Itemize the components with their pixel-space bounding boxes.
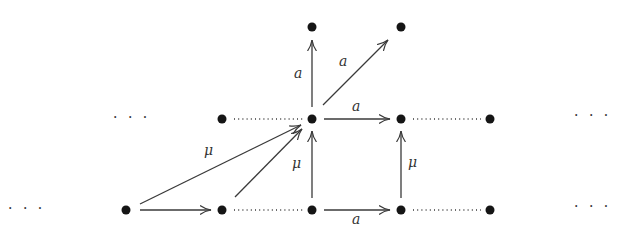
node-b4 — [486, 206, 495, 215]
node-t3 — [397, 23, 406, 32]
arrow-m2-t3-a — [323, 40, 388, 105]
ellipsis-bottom-left: · · · — [8, 200, 45, 216]
label-a-diagonal: a — [339, 53, 347, 69]
node-m1 — [218, 115, 227, 124]
label-mu-long: μ — [204, 142, 213, 158]
label-a-middle: a — [352, 98, 360, 114]
node-m4 — [486, 115, 495, 124]
ellipsis-bottom-right: · · · — [574, 198, 611, 214]
node-b3 — [397, 206, 406, 215]
node-b0 — [122, 206, 131, 215]
ellipsis-middle-left: · · · — [113, 109, 150, 125]
node-m2 — [308, 115, 317, 124]
label-mu-mid: μ — [292, 155, 301, 171]
ellipsis-middle-right: · · · — [574, 107, 611, 123]
node-b2 — [308, 206, 317, 215]
node-b1 — [218, 206, 227, 215]
node-t2 — [308, 23, 317, 32]
lattice-diagram: μ μ μ a a a a · · · · · · · · · · · · — [0, 0, 636, 237]
label-a-bottom: a — [352, 211, 360, 227]
label-a-vertical: a — [294, 65, 302, 81]
node-m3 — [397, 115, 406, 124]
arrow-b0-m2-mu — [140, 125, 301, 204]
label-mu-right: μ — [408, 154, 417, 170]
